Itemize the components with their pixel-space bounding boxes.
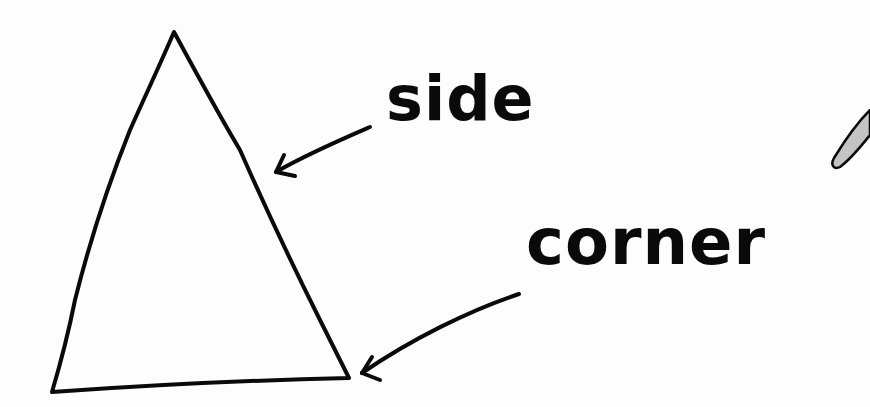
pencil-icon [832,110,870,168]
corner-arrow-icon [362,294,519,380]
triangle-shape [52,32,349,392]
side-arrow-icon [276,127,370,176]
side-label: side [386,68,535,130]
corner-label: corner [526,210,766,274]
